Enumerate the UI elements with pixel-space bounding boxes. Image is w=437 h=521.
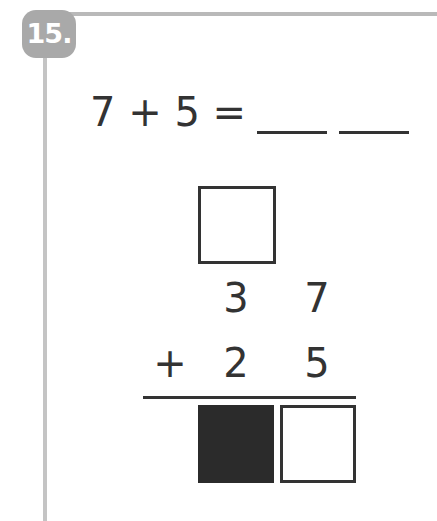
- carry-box[interactable]: [198, 186, 276, 264]
- bottom-ones-digit: 5: [297, 341, 337, 385]
- sum-line: [143, 396, 356, 399]
- answer-blank-2[interactable]: [339, 131, 409, 134]
- top-tens-digit: 3: [216, 276, 256, 320]
- answer-ones-box[interactable]: [280, 405, 356, 483]
- bottom-tens-digit: 2: [216, 341, 256, 385]
- plus-operator: +: [150, 341, 190, 385]
- top-ones-digit: 7: [297, 276, 337, 320]
- left-border-rule: [43, 50, 47, 521]
- problem-number-badge: 15.: [22, 10, 76, 58]
- equation-text: 7 + 5 =: [90, 88, 246, 136]
- answer-blank-1[interactable]: [257, 131, 327, 134]
- answer-tens-box-filled[interactable]: [198, 405, 274, 483]
- top-border-rule: [60, 12, 437, 16]
